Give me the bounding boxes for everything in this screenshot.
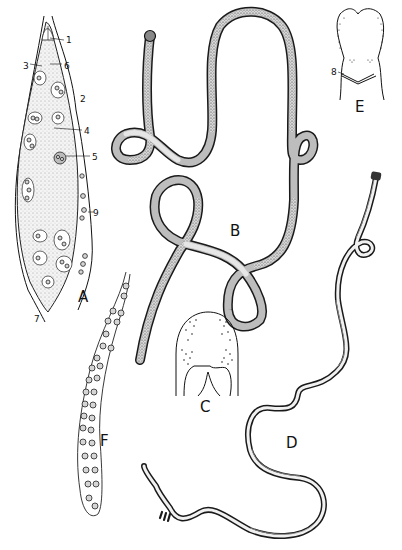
figure-e: 8 E [331, 9, 384, 116]
figure-label-b: B [230, 222, 240, 240]
figure-label-d: D [286, 434, 298, 452]
part-label-7: 7 [34, 314, 40, 324]
figure-label-a: A [78, 288, 89, 306]
part-label-4: 4 [84, 126, 90, 136]
figure-c-papillae [181, 319, 233, 365]
part-label-6: 6 [64, 61, 70, 71]
part-label-1: 1 [66, 35, 72, 45]
part-label-5: 5 [92, 152, 98, 162]
figure-d-head [370, 171, 381, 181]
figure-a: 1 2 3 4 5 6 7 9 A [15, 16, 99, 324]
figure-label-c: C [200, 398, 210, 416]
figure-label-e: E [355, 98, 364, 116]
figure-label-f: F [100, 432, 109, 450]
figure-b: B [116, 12, 313, 360]
illustration-plate: 1 2 3 4 5 6 7 9 A F [0, 0, 402, 550]
part-label-9: 9 [93, 208, 99, 218]
figure-f: F [78, 272, 130, 516]
figure-e-papillae [337, 17, 383, 62]
part-label-3: 3 [23, 61, 29, 71]
figure-c: C [176, 312, 238, 416]
part-label-8: 8 [331, 67, 337, 77]
figure-a-free-eggs [79, 174, 88, 274]
figure-e-head-outline [337, 9, 384, 58]
part-label-2: 2 [80, 94, 86, 104]
figure-d: D [144, 171, 382, 536]
